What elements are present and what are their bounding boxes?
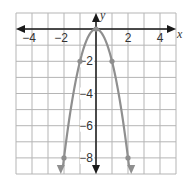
data-point	[77, 59, 82, 64]
data-point	[61, 155, 66, 160]
tick-labels: −4−224−2−4−6−8	[22, 31, 164, 165]
x-tick-label: 4	[157, 31, 164, 45]
y-tick-label: −6	[79, 119, 93, 133]
x-axis-arrow-right	[167, 25, 176, 33]
x-axis-label: x	[176, 27, 183, 41]
y-axis-arrow-up	[92, 13, 100, 22]
y-tick-label: −4	[79, 87, 93, 101]
y-tick-label: −8	[79, 151, 93, 165]
x-tick-label: 2	[125, 31, 132, 45]
y-axis-arrow-down	[92, 165, 100, 174]
y-axis-label: y	[99, 8, 106, 22]
data-point	[93, 27, 98, 32]
x-tick-label: −4	[22, 31, 36, 45]
parabola-chart: xy −4−224−2−4−6−8	[0, 0, 186, 188]
data-point	[109, 59, 114, 64]
x-tick-label: −2	[54, 31, 68, 45]
data-point	[125, 155, 130, 160]
